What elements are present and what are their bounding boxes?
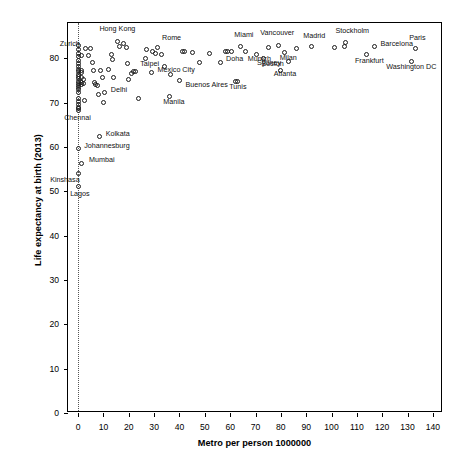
data-point (98, 68, 103, 73)
data-point (133, 69, 138, 74)
y-axis-tick-label: 10 (49, 364, 59, 374)
point-label-doha: Doha (226, 55, 243, 63)
x-axis-tick-label: 30 (149, 422, 159, 432)
point-label-vancouver: Vancouver (260, 29, 294, 37)
point-label-kolkata: Kolkata (106, 130, 130, 138)
x-axis-tick-label: 40 (175, 422, 185, 432)
x-axis-tick-label: 90 (301, 422, 311, 432)
data-point (79, 70, 84, 75)
data-point (294, 46, 299, 51)
data-point-kolkata (97, 134, 102, 139)
point-label-johannesburg: Johannesburg (84, 142, 130, 150)
y-axis-tick-label: 50 (49, 186, 59, 196)
point-label-taipei: Taipei (140, 60, 159, 68)
scatter-plot-figure: ZurichHong KongRomeMiamiVancouverStockho… (0, 0, 458, 461)
x-axis-tick-label: 60 (225, 422, 235, 432)
point-label-zurich: Zurich (60, 40, 80, 48)
point-label-manila: Manila (163, 98, 184, 106)
y-axis-tick-label: 0 (54, 408, 59, 418)
data-point (96, 92, 101, 97)
data-point (88, 46, 93, 51)
data-point (190, 50, 195, 55)
y-axis-tick-label: 30 (49, 275, 59, 285)
data-point (266, 45, 271, 50)
data-point (182, 49, 187, 54)
point-label-frankfurt: Frankfurt (355, 57, 384, 65)
x-axis-tick (281, 413, 282, 417)
point-label-barcelona: Barcelona (381, 40, 413, 48)
data-point-boston (286, 59, 291, 64)
y-axis-tick-label: 60 (49, 142, 59, 152)
point-label-madrid: Madrid (303, 32, 325, 40)
y-axis-tick-label: 70 (49, 98, 59, 108)
y-axis-tick (64, 280, 68, 281)
data-point-zurich (83, 46, 88, 51)
y-axis-tick (64, 191, 68, 192)
data-point (91, 68, 96, 73)
y-axis-tick (64, 369, 68, 370)
x-axis-tick-label: 50 (200, 422, 210, 432)
plot-frame: ZurichHong KongRomeMiamiVancouverStockho… (67, 22, 442, 412)
point-label-boston: Boston (261, 60, 283, 68)
point-label-tunis: Tunis (229, 83, 246, 91)
x-axis-tick-label: 100 (324, 422, 338, 432)
data-point-barcelona (372, 44, 377, 49)
data-point-mexico-city (149, 70, 154, 75)
x-axis-tick (433, 413, 434, 417)
point-label-kinshasa: Kinshasa (50, 176, 80, 184)
y-axis-tick (64, 103, 68, 104)
x-axis-tick-label: 0 (76, 422, 81, 432)
data-point-hong-kong (115, 39, 120, 44)
point-label-rome: Rome (162, 34, 181, 42)
x-axis-tick (78, 413, 79, 417)
data-point-doha (218, 60, 223, 65)
x-axis-tick (129, 413, 130, 417)
data-point (136, 96, 141, 101)
data-point-mumbai (79, 161, 84, 166)
data-point (153, 51, 158, 56)
x-axis-tick (154, 413, 155, 417)
data-point-rome (155, 45, 160, 50)
data-point-madrid (309, 44, 314, 49)
y-axis-tick-label: 80 (49, 53, 59, 63)
point-label-mexico-city: Mexico City (158, 66, 195, 74)
y-axis-tick (64, 413, 68, 414)
data-point (110, 57, 115, 62)
data-point (207, 51, 212, 56)
x-axis-tick (230, 413, 231, 417)
x-axis-tick (256, 413, 257, 417)
data-point (159, 52, 164, 57)
x-axis-tick (205, 413, 206, 417)
data-point (332, 45, 337, 50)
data-point (197, 60, 202, 65)
point-label-chennai: Chennai (64, 114, 91, 122)
point-label-delhi: Delhi (111, 86, 127, 94)
point-label-lagos: Lagos (70, 190, 90, 198)
y-axis-tick-label: 40 (49, 231, 59, 241)
x-axis-tick-label: 10 (99, 422, 109, 432)
x-axis-tick (332, 413, 333, 417)
data-point-vancouver (276, 43, 281, 48)
point-label-buenos-aires: Buenos Aires (185, 81, 227, 89)
data-point (79, 53, 84, 58)
x-axis-tick-label: 80 (276, 422, 286, 432)
point-label-stockholm: Stockholm (335, 27, 369, 35)
x-axis-tick-label: 140 (426, 422, 440, 432)
x-axis-tick (357, 413, 358, 417)
y-axis-tick (64, 147, 68, 148)
data-point (125, 61, 130, 66)
data-point (101, 100, 106, 105)
x-axis-tick-label: 70 (251, 422, 261, 432)
x-axis-tick-label: 130 (400, 422, 414, 432)
y-axis-tick (64, 236, 68, 237)
x-axis-tick-label: 110 (350, 422, 364, 432)
data-point-miami (238, 44, 243, 49)
x-axis-tick (179, 413, 180, 417)
x-axis-tick (306, 413, 307, 417)
point-label-hong-kong: Hong Kong (99, 25, 135, 33)
data-point (109, 52, 114, 57)
plot-area: ZurichHong KongRomeMiamiVancouverStockho… (68, 23, 441, 411)
point-label-atlanta: Atlanta (274, 70, 296, 78)
data-point (126, 77, 131, 82)
y-axis-label: Life expectancy at birth (2013) (33, 70, 43, 330)
